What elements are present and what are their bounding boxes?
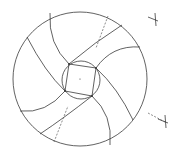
vertex-point [95, 67, 97, 69]
blade-arc [40, 96, 92, 134]
inscribed-square [65, 64, 96, 96]
blade-arc [96, 47, 140, 68]
blade-arc [96, 68, 133, 120]
cross-markers [148, 13, 168, 128]
blade-arc [27, 37, 65, 91]
center-point [79, 78, 80, 79]
cross-marker-icon [158, 115, 168, 128]
vertex-point [68, 63, 70, 65]
construction-line [54, 106, 68, 142]
blade-arc [92, 96, 110, 145]
diagram-svg [0, 0, 179, 162]
blade-arc [50, 13, 69, 64]
vertex-point [64, 90, 66, 92]
construction-lines [54, 16, 165, 142]
construction-line [96, 16, 108, 48]
blade-arc [69, 25, 122, 64]
vertex-point [91, 95, 93, 97]
iris-diagram [0, 0, 179, 162]
blade-arc [20, 91, 65, 111]
cross-marker-icon [148, 13, 158, 26]
